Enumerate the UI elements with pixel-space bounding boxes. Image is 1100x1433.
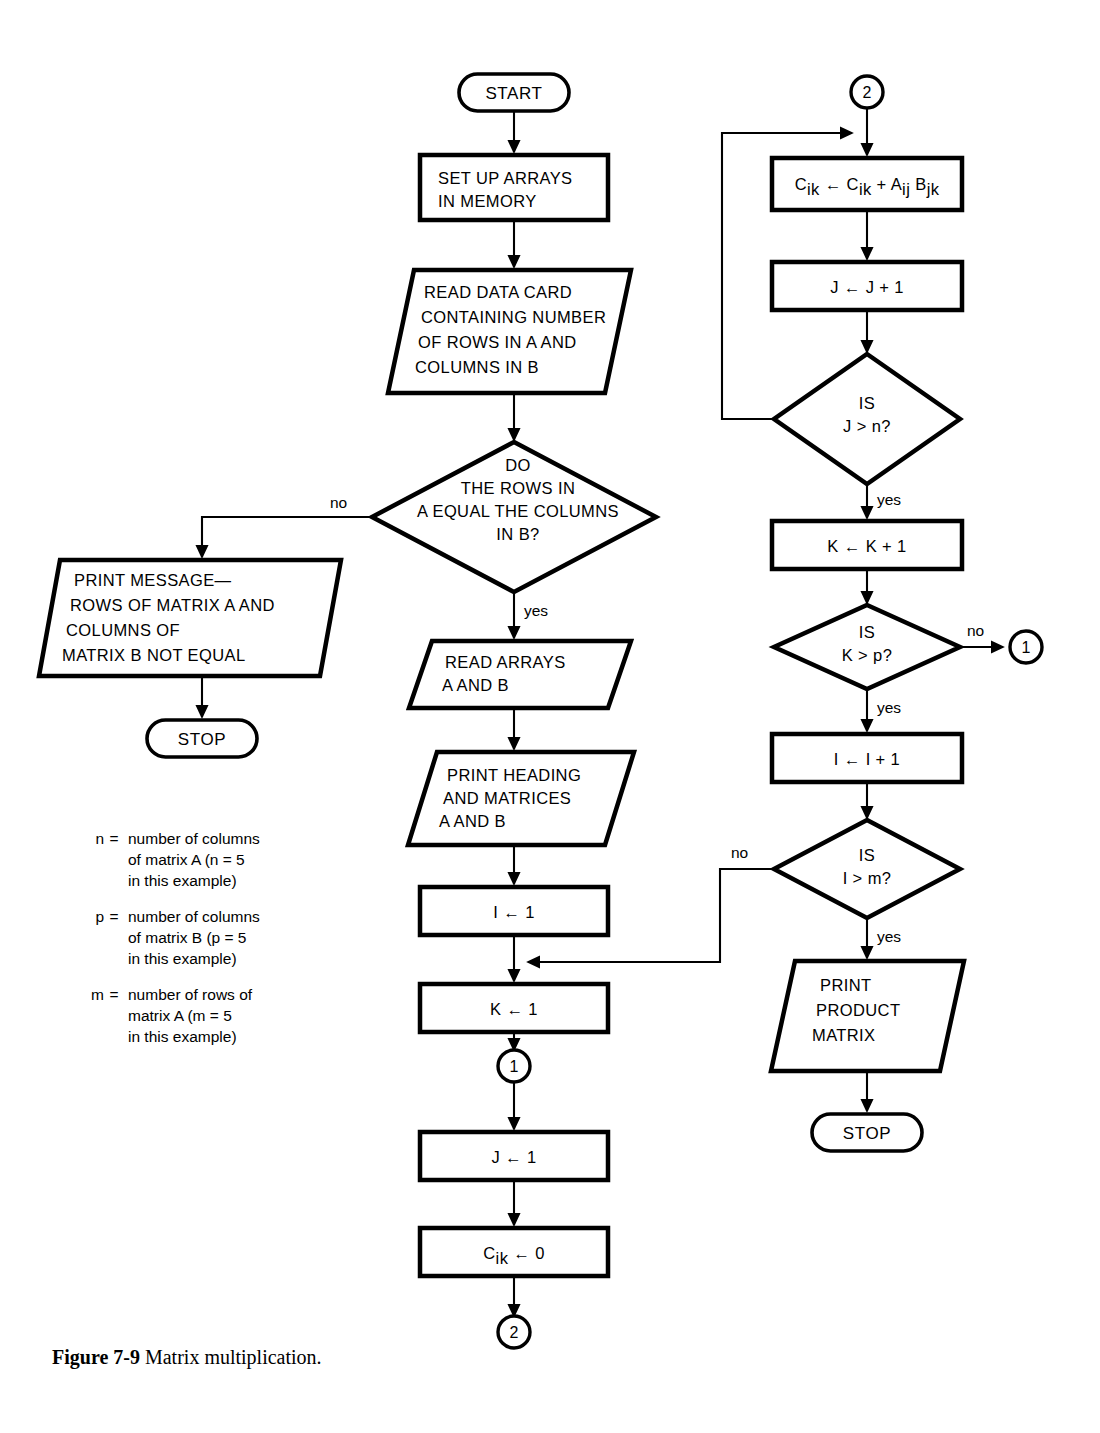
legend-definition: number of columns of matrix A (n = 5 in … bbox=[124, 828, 372, 891]
legend-definition-line: in this example) bbox=[128, 1026, 372, 1047]
node-init-j: J ← 1 bbox=[420, 1132, 608, 1180]
legend-equals: = bbox=[104, 828, 124, 891]
node-init-i: I ← 1 bbox=[420, 887, 608, 935]
legend-symbol: p bbox=[82, 906, 104, 969]
node-print-product: PRINT PRODUCT MATRIX bbox=[771, 961, 964, 1071]
node-connector-1-middle-label: 1 bbox=[510, 1058, 519, 1075]
node-incr-j: J ← J + 1 bbox=[772, 262, 962, 310]
node-connector-2-top-label: 2 bbox=[863, 84, 872, 101]
accumulate-sub2: ik bbox=[859, 180, 872, 198]
node-init-k: K ← 1 bbox=[420, 984, 608, 1032]
accumulate-seg4: B bbox=[910, 175, 926, 193]
edge-decide-no-to-printmsg bbox=[202, 517, 372, 557]
node-accumulate: Cik ← Cik + Aij Bjk bbox=[772, 158, 962, 210]
figure-caption: Figure 7-9 Matrix multiplication. bbox=[52, 1346, 322, 1369]
legend-definition-line: number of columns bbox=[128, 828, 372, 849]
node-print-message-line2: ROWS OF MATRIX A AND bbox=[70, 596, 275, 614]
node-connector-1-middle: 1 bbox=[498, 1050, 530, 1082]
node-read-card: READ DATA CARD CONTAINING NUMBER OF ROWS… bbox=[388, 270, 631, 393]
flowchart-diagram: START SET UP ARRAYS IN MEMORY READ DATA … bbox=[0, 0, 1100, 1433]
node-read-arrays-line2: A AND B bbox=[442, 676, 509, 694]
node-incr-i: I ← I + 1 bbox=[772, 734, 962, 782]
branch-label-decide-i-no: no bbox=[731, 844, 748, 861]
legend-definition-line: matrix A (m = 5 bbox=[128, 1005, 372, 1026]
branch-label-decide-dims-yes: yes bbox=[524, 602, 548, 619]
node-decide-k-line1: IS bbox=[859, 623, 875, 641]
legend-symbol: m bbox=[82, 984, 104, 1047]
legend-equals: = bbox=[104, 906, 124, 969]
node-incr-k: K ← K + 1 bbox=[772, 521, 962, 569]
node-init-cik-var: C bbox=[483, 1244, 495, 1262]
accumulate-sub1: ik bbox=[807, 180, 820, 198]
node-connector-2-bottom-label: 2 bbox=[510, 1324, 519, 1341]
legend-symbol: n bbox=[82, 828, 104, 891]
accumulate-seg1: C bbox=[795, 175, 807, 193]
node-incr-j-label: J ← J + 1 bbox=[830, 278, 904, 296]
figure-container: START SET UP ARRAYS IN MEMORY READ DATA … bbox=[0, 0, 1100, 1433]
legend-definition-line: in this example) bbox=[128, 870, 372, 891]
node-print-product-line3: MATRIX bbox=[812, 1026, 876, 1044]
node-print-heading-line2: AND MATRICES bbox=[443, 789, 571, 807]
node-connector-2-top: 2 bbox=[851, 76, 883, 108]
node-start: START bbox=[459, 74, 569, 111]
node-print-heading-line3: A AND B bbox=[439, 812, 506, 830]
node-decide-j-line1: IS bbox=[859, 394, 875, 412]
node-init-k-label: K ← 1 bbox=[490, 1000, 538, 1018]
node-stop-left: STOP bbox=[147, 720, 257, 757]
node-incr-k-label: K ← K + 1 bbox=[827, 537, 906, 555]
accumulate-seg2: ← C bbox=[820, 175, 859, 193]
legend-item: p = number of columns of matrix B (p = 5… bbox=[82, 906, 372, 969]
node-read-arrays-line1: READ ARRAYS bbox=[445, 653, 566, 671]
node-setup-line2: IN MEMORY bbox=[438, 192, 537, 210]
node-read-card-line1: READ DATA CARD bbox=[424, 283, 572, 301]
legend-definition: number of rows of matrix A (m = 5 in thi… bbox=[124, 984, 372, 1047]
figure-caption-label: Figure 7-9 bbox=[52, 1346, 140, 1368]
node-stop-right: STOP bbox=[812, 1114, 922, 1151]
node-decide-j: IS J > n? bbox=[774, 354, 960, 484]
branch-label-decide-k-no: no bbox=[967, 622, 984, 639]
node-print-heading-line1: PRINT HEADING bbox=[447, 766, 581, 784]
node-print-heading: PRINT HEADING AND MATRICES A AND B bbox=[408, 752, 634, 845]
node-read-arrays: READ ARRAYS A AND B bbox=[409, 641, 631, 708]
branch-label-decide-j-yes: yes bbox=[877, 491, 901, 508]
node-print-product-line2: PRODUCT bbox=[816, 1001, 900, 1019]
branch-label-decide-dims-no: no bbox=[330, 494, 347, 511]
accumulate-seg3: + A bbox=[872, 175, 903, 193]
node-init-i-label: I ← 1 bbox=[493, 903, 534, 921]
legend-definition: number of columns of matrix B (p = 5 in … bbox=[124, 906, 372, 969]
node-decide-dims-line2: THE ROWS IN bbox=[461, 479, 575, 497]
node-connector-1-right: 1 bbox=[1010, 631, 1042, 663]
branch-label-decide-i-yes: yes bbox=[877, 928, 901, 945]
accumulate-sub4: jk bbox=[926, 180, 940, 198]
node-decide-dims-line4: IN B? bbox=[496, 525, 539, 543]
node-setup: SET UP ARRAYS IN MEMORY bbox=[420, 155, 608, 220]
node-print-message: PRINT MESSAGE— ROWS OF MATRIX A AND COLU… bbox=[39, 560, 341, 676]
node-decide-dims-line3: A EQUAL THE COLUMNS bbox=[417, 502, 619, 520]
node-decide-j-line2: J > n? bbox=[843, 417, 891, 435]
node-stop-right-label: STOP bbox=[843, 1124, 891, 1143]
node-incr-i-label: I ← I + 1 bbox=[834, 750, 900, 768]
node-print-message-line1: PRINT MESSAGE— bbox=[74, 571, 232, 589]
node-decide-i-line2: I > m? bbox=[843, 869, 892, 887]
variable-legend: n = number of columns of matrix A (n = 5… bbox=[82, 828, 372, 1062]
node-init-cik-assign: ← 0 bbox=[508, 1244, 544, 1262]
node-decide-dims: DO THE ROWS IN A EQUAL THE COLUMNS IN B? bbox=[372, 442, 656, 592]
node-stop-left-label: STOP bbox=[178, 730, 226, 749]
node-init-j-label: J ← 1 bbox=[491, 1148, 536, 1166]
node-decide-i: IS I > m? bbox=[774, 820, 960, 918]
node-read-card-line3: OF ROWS IN A AND bbox=[418, 333, 577, 351]
node-decide-dims-line1: DO bbox=[505, 456, 531, 474]
node-start-label: START bbox=[485, 84, 542, 103]
node-decide-i-line1: IS bbox=[859, 846, 875, 864]
node-init-cik: Cik ← 0 bbox=[420, 1228, 608, 1276]
legend-equals: = bbox=[104, 984, 124, 1047]
node-read-card-line4: COLUMNS IN B bbox=[415, 358, 539, 376]
node-decide-k-line2: K > p? bbox=[842, 646, 893, 664]
node-decide-k: IS K > p? bbox=[774, 605, 960, 689]
legend-definition-line: of matrix B (p = 5 bbox=[128, 927, 372, 948]
node-init-cik-subscript: ik bbox=[496, 1249, 509, 1267]
accumulate-sub3: ij bbox=[902, 180, 910, 198]
node-read-card-line2: CONTAINING NUMBER bbox=[421, 308, 606, 326]
node-print-message-line3: COLUMNS OF bbox=[66, 621, 180, 639]
legend-item: m = number of rows of matrix A (m = 5 in… bbox=[82, 984, 372, 1047]
